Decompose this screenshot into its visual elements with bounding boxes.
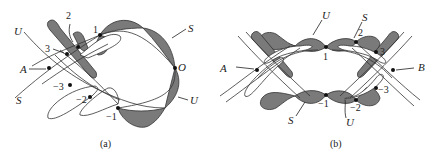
point-B — [391, 68, 395, 72]
label-point-neg1: −1 — [318, 98, 329, 109]
label-point-neg1: −1 — [106, 111, 117, 122]
label-point-neg3: −3 — [53, 81, 64, 92]
arrow-S-bottom — [296, 102, 305, 116]
label-point-neg2: −2 — [76, 94, 87, 105]
point-neg2 — [88, 95, 92, 99]
arrow-S-right — [172, 29, 186, 38]
label-O: O — [178, 61, 186, 73]
label-U-right: U — [190, 94, 199, 106]
arrow-U-right — [178, 97, 188, 100]
point-3 — [374, 50, 378, 54]
label-point-neg3: −3 — [378, 84, 389, 95]
point-2 — [354, 40, 358, 44]
label-U-top: U — [14, 25, 23, 37]
arrow-A — [236, 67, 254, 69]
point-neg1 — [116, 106, 120, 110]
arrow-U-top — [313, 20, 322, 35]
label-point-2: 2 — [66, 10, 71, 21]
label-A: A — [219, 62, 227, 74]
caption-b: (b) — [330, 138, 342, 150]
label-S-bottom: S — [288, 114, 294, 126]
label-point-1: 1 — [93, 24, 98, 35]
label-S-top: S — [362, 11, 368, 23]
label-U-bottom: U — [346, 116, 355, 128]
point-1 — [98, 33, 102, 37]
label-point-neg2: −2 — [350, 102, 361, 113]
label-point-3: 3 — [380, 46, 385, 57]
point-A — [47, 66, 51, 70]
label-S-right: S — [188, 22, 194, 34]
label-A: A — [19, 63, 27, 75]
point-2 — [76, 45, 80, 49]
panel-a: U S A S O U 1 2 3 −3 −2 −1 (a) — [14, 10, 199, 150]
arrow-B — [396, 68, 414, 70]
label-S-bottom: S — [16, 94, 22, 106]
caption-a: (a) — [100, 138, 111, 150]
label-point-1: 1 — [323, 51, 328, 62]
label-point-3: 3 — [45, 43, 50, 54]
point-1 — [324, 45, 328, 49]
label-point-2: 2 — [358, 27, 363, 38]
arrow-2 — [69, 24, 73, 42]
panel-b: A B U S S U 1 2 3 −1 −2 −3 (b) — [219, 9, 425, 150]
point-neg3 — [68, 83, 72, 87]
point-neg1 — [324, 93, 328, 97]
point-A — [255, 68, 259, 72]
lobe-right — [165, 68, 179, 108]
lobe-bottom — [118, 108, 165, 127]
label-U-top: U — [322, 9, 331, 21]
homoclinic-heteroclinic-diagram: U S A S O U 1 2 3 −3 −2 −1 (a) — [0, 0, 430, 155]
point-O — [173, 66, 177, 70]
point-3 — [65, 52, 69, 56]
label-B: B — [418, 61, 425, 73]
lobe-bottom-left-ear — [260, 93, 295, 110]
